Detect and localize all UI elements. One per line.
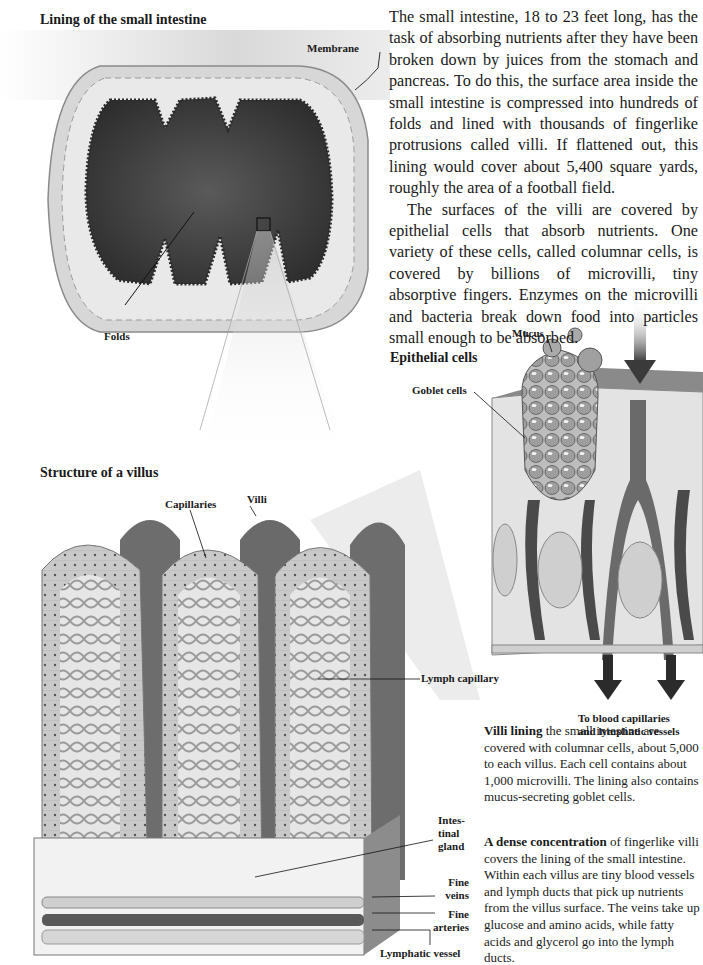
folds-label: Folds [104,330,130,343]
villi-lining-caption: Villi lining the small intestine are cov… [484,723,700,806]
membrane-label: Membrane [307,42,359,55]
lining-diagram-title: Lining of the small intestine [40,12,206,28]
fine-arteries-label: Fine arteries [422,908,469,934]
intestine-cross-section [48,66,368,332]
villi-label: Villi [247,493,267,506]
dense-concentration-caption: A dense concentration of fingerlike vill… [484,834,700,965]
fine-arteries-line-1: Fine [422,908,469,921]
fine-veins-line-2: veins [437,889,469,902]
villus-structure-diagram [34,520,405,955]
dense-concentration-caption-lead: A dense concentration [484,834,607,849]
fine-arteries-line-2: arteries [422,921,469,934]
intro-text: The small intestine, 18 to 23 feet long,… [389,7,698,350]
lymph-capillary-label: Lymph capillary [421,672,499,685]
fine-veins-label: Fine veins [437,876,469,902]
intestinal-gland-label: Intes- tinal gland [438,814,465,853]
lymphatic-vessel-label: Lymphatic vessel [380,947,460,960]
intestinal-gland-line-3: gland [438,840,465,853]
epithelial-diagram-title: Epithelial cells [390,350,478,366]
dense-concentration-caption-text: of fingerlike villi covers the lining of… [484,834,700,965]
villi-lining-caption-lead: Villi lining [484,723,542,738]
mucus-label: Mucus [512,327,544,340]
intro-paragraph-1: The small intestine, 18 to 23 feet long,… [389,7,698,200]
capillaries-label: Capillaries [165,498,216,511]
fine-veins-line-1: Fine [437,876,469,889]
intestinal-gland-line-1: Intes- [438,814,465,827]
goblet-cells-label: Goblet cells [412,384,467,397]
intestinal-gland-line-2: tinal [438,827,465,840]
villus-diagram-title: Structure of a villus [40,465,158,481]
epithelial-cells-diagram [492,328,703,660]
